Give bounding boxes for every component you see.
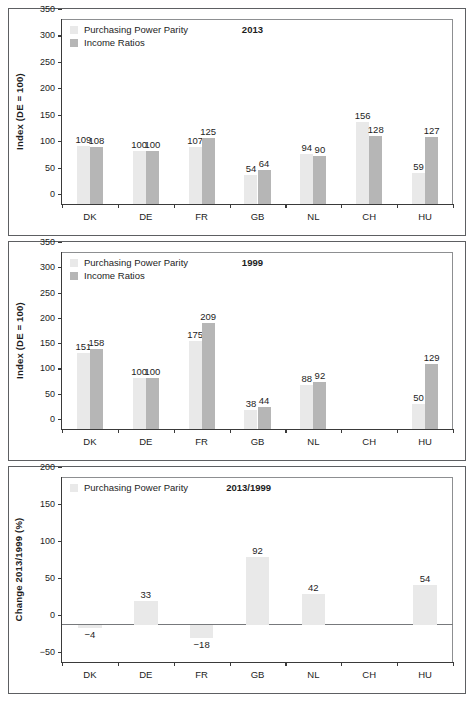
legend-label-ppp-change: Purchasing Power Parity [84, 482, 188, 494]
bar-value-label: 92 [315, 370, 326, 381]
x-axis-label-panel-2013-NL: NL [307, 211, 319, 222]
bar-value-label: 90 [315, 144, 326, 155]
x-axis-label-panel-1999-HU: HU [418, 436, 432, 447]
x-tick-mark-panel-change-0 [62, 662, 63, 666]
bar-value-label: 127 [424, 125, 440, 136]
y-axis-title-1999: Index (DE = 100) [11, 242, 27, 438]
x-tick-mark-panel-2013-3 [230, 204, 231, 208]
bar-value-label: 33 [140, 589, 151, 600]
x-axis-label-panel-2013-CH: CH [362, 211, 376, 222]
x-axis-label-panel-change-CH: CH [362, 669, 376, 680]
x-axis-label-panel-1999-FR: FR [195, 436, 208, 447]
bar-panel-1999-DK-income: 158 [90, 349, 103, 429]
plot-area-change: Purchasing Power Parity 2013/1999 −50050… [61, 477, 453, 663]
x-tick-mark-panel-2013-end [453, 204, 454, 208]
bar-panel-1999-FR-ppp: 175 [189, 341, 202, 430]
y-axis-title-change: Change 2013/1999 (%) [11, 467, 27, 671]
bar-panel-2013-GB-ppp: 54 [244, 175, 257, 204]
x-axis-label-panel-1999-NL: NL [307, 436, 319, 447]
y-tick-panel-1999-0: 0 [50, 414, 62, 424]
legend-row-ppp-1999: Purchasing Power Parity [70, 257, 188, 269]
bar-value-label: 209 [200, 311, 216, 322]
x-axis-label-panel-1999-DK: DK [83, 436, 96, 447]
plot-frame-top-2013 [62, 19, 453, 20]
bar-value-label: 125 [200, 126, 216, 137]
x-axis-label-panel-1999-CH: CH [362, 436, 376, 447]
ppp-swatch-icon [70, 259, 78, 267]
plot-wrap-1999: Index (DE = 100) Purchasing Power Parity… [9, 242, 465, 460]
x-axis-label-panel-2013-GB: GB [251, 211, 265, 222]
y-tick-panel-2013-150: 150 [40, 110, 62, 120]
bar-panel-2013-DK-ppp: 109 [77, 146, 90, 204]
bar-panel-change-GB-ppp: 92 [246, 557, 269, 625]
figure-root: Index (DE = 100) Purchasing Power Parity… [0, 0, 476, 706]
bar-panel-change-DK-ppp: −4 [78, 625, 101, 628]
bar-panel-1999-HU-ppp: 50 [412, 404, 425, 429]
y-tick-panel-1999-250: 250 [40, 288, 62, 298]
bar-panel-1999-FR-income: 209 [202, 323, 215, 429]
x-axis-label-panel-1999-DE: DE [139, 436, 152, 447]
x-axis-label-panel-change-DE: DE [139, 669, 152, 680]
panel-1999: Index (DE = 100) Purchasing Power Parity… [8, 241, 466, 461]
panel-2013: Index (DE = 100) Purchasing Power Parity… [8, 8, 466, 236]
y-tick-panel-1999-150: 150 [40, 338, 62, 348]
x-tick-mark-panel-1999-2 [174, 429, 175, 433]
legend-1999: Purchasing Power Parity Income Ratios [70, 257, 188, 282]
bar-value-label: 64 [259, 158, 270, 169]
bar-panel-change-HU-ppp: 54 [413, 585, 436, 625]
x-tick-mark-panel-1999-1 [118, 429, 119, 433]
plot-area-2013: Purchasing Power Parity Income Ratios 20… [61, 19, 453, 205]
y-tick-panel-change-100: 100 [40, 536, 62, 546]
bar-value-label: 128 [368, 124, 384, 135]
x-tick-mark-panel-change-5 [341, 662, 342, 666]
x-axis-label-panel-2013-HU: HU [418, 211, 432, 222]
bar-value-label: 100 [144, 366, 160, 377]
y-tick-panel-change--50: −50 [40, 647, 62, 657]
y-tick-panel-2013-350: 350 [40, 4, 62, 14]
plot-wrap-2013: Index (DE = 100) Purchasing Power Parity… [9, 9, 465, 235]
x-tick-mark-panel-1999-3 [230, 429, 231, 433]
y-axis-title-label-change: Change 2013/1999 (%) [14, 517, 25, 621]
x-tick-mark-panel-change-3 [230, 662, 231, 666]
x-tick-mark-panel-2013-1 [118, 204, 119, 208]
bar-panel-2013-NL-income: 90 [313, 156, 326, 204]
bar-panel-2013-HU-ppp: 59 [412, 173, 425, 204]
plot-frame-top-1999 [62, 252, 453, 253]
bar-panel-1999-GB-ppp: 38 [244, 410, 257, 429]
bar-value-label: 38 [246, 398, 257, 409]
income-swatch-icon [70, 272, 78, 280]
bar-panel-2013-FR-ppp: 107 [189, 147, 202, 204]
x-tick-mark-panel-1999-end [453, 429, 454, 433]
bar-panel-2013-DE-income: 100 [146, 151, 159, 204]
y-axis-title-label-2013: Index (DE = 100) [14, 73, 25, 150]
x-axis-label-panel-change-NL: NL [307, 669, 319, 680]
panel-change: Change 2013/1999 (%) Purchasing Power Pa… [8, 466, 466, 694]
y-tick-panel-2013-50: 50 [45, 163, 62, 173]
y-tick-panel-1999-50: 50 [45, 389, 62, 399]
legend-label-income-2013: Income Ratios [84, 37, 145, 49]
income-swatch-icon [70, 39, 78, 47]
bar-panel-2013-NL-ppp: 94 [300, 154, 313, 204]
bar-panel-1999-DE-ppp: 100 [133, 378, 146, 429]
y-axis-title-label-1999: Index (DE = 100) [14, 302, 25, 379]
x-tick-mark-panel-change-6 [397, 662, 398, 666]
y-tick-panel-2013-100: 100 [40, 136, 62, 146]
bar-value-label: 92 [252, 545, 263, 556]
bar-value-label: 50 [413, 392, 424, 403]
bar-value-label: 107 [187, 135, 203, 146]
x-tick-mark-panel-1999-6 [397, 429, 398, 433]
legend-row-income-1999: Income Ratios [70, 270, 188, 282]
bar-panel-2013-DE-ppp: 100 [133, 151, 146, 204]
x-tick-mark-panel-2013-2 [174, 204, 175, 208]
bar-panel-change-NL-ppp: 42 [302, 594, 325, 625]
panel-title-change: 2013/1999 [226, 482, 271, 493]
panel-title-1999: 1999 [242, 257, 263, 268]
y-tick-panel-change-50: 50 [45, 573, 62, 583]
bar-value-label: 54 [246, 163, 257, 174]
bar-panel-2013-DK-income: 108 [90, 147, 103, 204]
bar-panel-1999-NL-income: 92 [313, 382, 326, 429]
plot-frame-right-2013 [452, 19, 453, 204]
y-tick-panel-change-0: 0 [50, 610, 62, 620]
y-tick-panel-1999-300: 300 [40, 262, 62, 272]
x-tick-mark-panel-2013-4 [285, 204, 286, 208]
